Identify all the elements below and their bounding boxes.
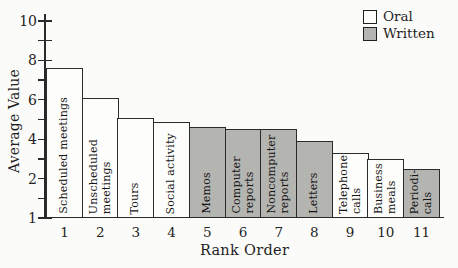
bar: Tours [117,118,154,219]
bar: Business meals [367,159,404,218]
x-tick-label: 4 [154,226,190,240]
bar-label-text: Unscheduled meetings [87,139,113,214]
x-tick-label: 9 [332,226,368,240]
x-tick-label: 6 [225,226,261,240]
oral-swatch-icon [363,10,377,24]
y-tick-label: 4 [7,132,37,146]
bar-label: Periodi- cals [404,172,439,214]
bar: Computer reports [225,129,262,218]
bar-label: Business meals [368,162,403,214]
x-axis-line [45,217,444,218]
bar-label: Noncomputer reports [261,132,296,214]
bar-label: Computer reports [226,132,261,214]
bar: Noncomputer reports [260,129,297,218]
legend: Oral Written [363,10,435,41]
x-tick-label: 1 [47,226,83,240]
bar-label-text: Noncomputer reports [266,135,292,214]
y-axis-title: Average Value [6,69,22,173]
x-tick-label: 8 [296,226,332,240]
bar: Social activity [153,122,190,219]
x-tick-label: 10 [368,226,404,240]
legend-label-oral: Oral [383,10,413,24]
x-tick-label: 2 [82,226,118,240]
bar-label: Scheduled meetings [47,71,82,214]
written-swatch-icon [363,27,377,41]
bars-group: Scheduled meetingsUnscheduled meetingsTo… [46,68,440,218]
bar-label: Telephone calls [333,156,368,214]
bar-label-text: Telephone calls [337,155,363,214]
bar-label: Letters [297,144,332,214]
y-tick-label: 6 [7,93,37,107]
bar-label-text: Periodi- cals [409,169,435,214]
x-tick-label: 11 [404,226,440,240]
bar: Periodi- cals [403,169,440,218]
y-tick-label: 1 [7,211,37,225]
bar-label-text: Scheduled meetings [58,97,71,214]
bar-label-text: Social activity [165,133,178,214]
x-tick-label: 7 [261,226,297,240]
bar-chart-figure: Average Value 1086421 Scheduled meetings… [0,0,458,268]
bar: Memos [189,127,226,218]
bar-label-text: Letters [308,173,321,214]
bar-label: Memos [190,130,225,214]
x-tick-label: 5 [189,226,225,240]
bar-label: Tours [118,121,153,215]
plot-area: Scheduled meetingsUnscheduled meetingsTo… [45,21,444,218]
legend-item-oral: Oral [363,10,435,24]
bar: Scheduled meetings [46,68,83,218]
bar-label: Unscheduled meetings [83,101,118,214]
bar-label: Social activity [154,125,189,215]
bar: Unscheduled meetings [82,98,119,218]
bar: Telephone calls [332,153,369,218]
x-axis-title: Rank Order [45,242,444,258]
y-tick-label: 10 [7,14,37,28]
bar-label-text: Memos [201,173,214,214]
y-tick-label: 2 [7,172,37,186]
bar-label-text: Computer reports [230,157,256,214]
bar-label-text: Business meals [373,163,399,214]
bar-label-text: Tours [129,182,142,214]
y-tick-label: 8 [7,53,37,67]
bar: Letters [296,141,333,218]
legend-label-written: Written [383,27,435,41]
legend-item-written: Written [363,27,435,41]
x-tick-label: 3 [118,226,154,240]
